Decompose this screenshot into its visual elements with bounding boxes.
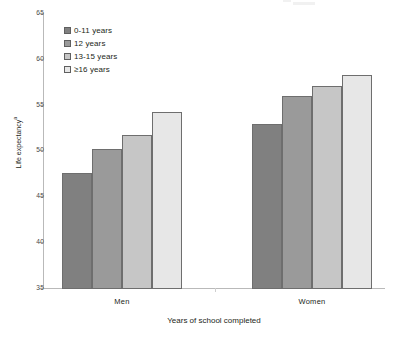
- legend-item-12-years: 12 years: [64, 37, 117, 49]
- y-tick-label: 55: [22, 101, 44, 108]
- y-tick-50: 50: [0, 150, 44, 151]
- x-axis-title: Years of school completed: [43, 316, 385, 325]
- legend: 0-11 years 12 years 13-15 years ≥16 year…: [64, 24, 117, 76]
- legend-item-0-11-years: 0-11 years: [64, 24, 117, 36]
- bar-chart: 65 60 55 50 45 40 35 Life expectancya Ye…: [0, 0, 412, 337]
- y-axis-title: Life expectancya: [12, 93, 21, 193]
- bar-men-12-years: [92, 149, 122, 289]
- y-tick-55: 55: [0, 105, 44, 106]
- group-label-men: Men: [92, 297, 152, 306]
- bar-women-12-years: [282, 96, 312, 289]
- bar-men-13-15-years: [122, 135, 152, 289]
- bar-men-16-plus-years: [152, 112, 182, 289]
- legend-item-16-plus-years: ≥16 years: [64, 63, 117, 75]
- y-tick-label: 60: [22, 55, 44, 62]
- scan-artifact: [283, 0, 291, 2]
- bar-women-13-15-years: [312, 86, 342, 289]
- legend-swatch-icon: [64, 66, 71, 73]
- legend-swatch-icon: [64, 27, 71, 34]
- legend-label: 0-11 years: [74, 26, 112, 35]
- legend-swatch-icon: [64, 53, 71, 60]
- y-axis-title-text: Life expectancy: [15, 120, 22, 169]
- y-tick-65: 65: [0, 13, 44, 14]
- bar-women-16-plus-years: [342, 75, 372, 289]
- y-tick-label: 45: [22, 192, 44, 199]
- y-tick-35: 35: [0, 288, 44, 289]
- x-axis-tick-mid: [215, 288, 216, 292]
- legend-item-13-15-years: 13-15 years: [64, 50, 117, 62]
- legend-swatch-icon: [64, 40, 71, 47]
- bar-men-0-11-years: [62, 173, 92, 289]
- y-tick-label: 65: [22, 9, 44, 16]
- group-label-women: Women: [282, 297, 342, 306]
- bar-women-0-11-years: [252, 124, 282, 289]
- y-tick-label: 40: [22, 238, 44, 245]
- y-tick-label: 50: [22, 146, 44, 153]
- legend-label: 13-15 years: [74, 52, 117, 61]
- y-tick-40: 40: [0, 242, 44, 243]
- y-tick-60: 60: [0, 59, 44, 60]
- y-axis-title-superscript: a: [12, 117, 18, 120]
- y-tick-45: 45: [0, 196, 44, 197]
- legend-label: ≥16 years: [74, 65, 110, 74]
- y-tick-label: 35: [22, 284, 44, 291]
- scan-artifact: [293, 2, 315, 5]
- legend-label: 12 years: [74, 39, 105, 48]
